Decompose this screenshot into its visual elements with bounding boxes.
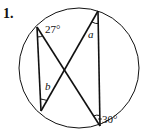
- chord-right: [98, 11, 100, 126]
- chord-diagonal-down: [37, 27, 100, 126]
- chord-left: [37, 27, 41, 111]
- angle-arc-bottom-left: [41, 99, 48, 101]
- label-angle-b: b: [45, 80, 51, 92]
- angle-arc-bottom-right: [94, 115, 100, 116]
- inscribed-angles-figure: 1. 27° a b 30°: [0, 0, 144, 130]
- angle-arc-top-left: [38, 36, 44, 38]
- label-angle-a: a: [88, 28, 94, 40]
- circle-diagram: 27° a b 30°: [0, 0, 144, 130]
- label-27-degrees: 27°: [45, 23, 60, 35]
- circle: [19, 8, 139, 128]
- label-30-degrees: 30°: [102, 113, 117, 125]
